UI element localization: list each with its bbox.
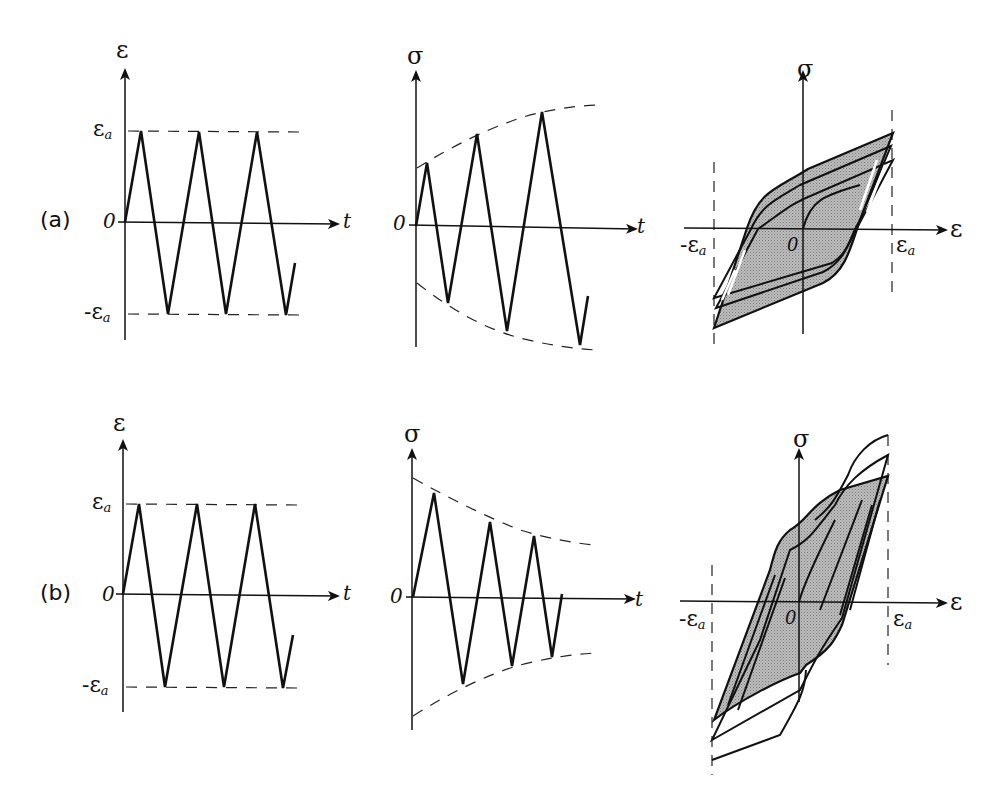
zero-label: 0 (103, 211, 116, 231)
epsilon-axis (684, 228, 946, 230)
zero-label: 0 (393, 213, 406, 233)
row-b-stress-time-plot (406, 450, 634, 730)
t-axis (116, 594, 338, 596)
neg-eps-symbol: -ε (680, 232, 699, 257)
strain-axis-label: ε (950, 217, 962, 241)
neg-eps-symbol: -ε (679, 606, 698, 631)
row-label-b: (b) (40, 582, 71, 604)
eps-symbol: ε (92, 489, 103, 514)
zero-label: 0 (390, 586, 403, 606)
strain-limit-label: εa (893, 608, 912, 631)
neg-strain-limit-label: -εa (680, 234, 707, 257)
subscript-a: a (698, 617, 706, 632)
upper-limit-dashed (126, 504, 298, 505)
lower-limit-dashed (128, 314, 300, 315)
lower-envelope-dashed (417, 283, 597, 350)
row-a-strain-time-plot (118, 70, 338, 340)
subscript-a: a (907, 243, 915, 258)
subscript-a: a (699, 243, 707, 258)
lower-envelope-dashed (413, 653, 595, 716)
epsilon-axis (680, 601, 946, 603)
figure-canvas (0, 0, 998, 812)
strain-axis-label: ε (113, 411, 125, 435)
row-label-a: (a) (40, 209, 71, 231)
neg-eps-symbol: -ε (82, 672, 101, 697)
strain-axis-label: ε (116, 38, 128, 62)
row-a-stress-time-plot (409, 72, 636, 350)
eps-symbol: ε (893, 606, 904, 631)
subscript-a: a (104, 127, 112, 142)
lower-limit-dashed (126, 687, 298, 688)
strain-limit-label: εa (896, 234, 915, 257)
neg-strain-amplitude-label: -εa (84, 301, 111, 324)
subscript-a: a (904, 617, 912, 632)
stress-signal (413, 493, 562, 684)
t-axis (406, 597, 634, 599)
origin-label: 0 (785, 609, 796, 627)
subscript-a: a (103, 310, 111, 325)
neg-strain-limit-label: -εa (679, 608, 706, 631)
row-b-hysteresis-plot (680, 435, 946, 775)
eps-symbol: ε (93, 116, 104, 141)
stress-axis-label: σ (793, 427, 809, 451)
stress-signal (416, 112, 588, 345)
neg-eps-symbol: -ε (84, 299, 103, 324)
origin-label: 0 (787, 236, 798, 254)
time-axis-label: t (343, 583, 351, 603)
stress-axis-label: σ (797, 57, 813, 81)
strain-axis-label: ε (950, 590, 962, 614)
t-axis (118, 222, 338, 224)
strain-amplitude-label: εa (92, 491, 111, 514)
upper-limit-dashed (128, 131, 300, 132)
zero-label: 0 (102, 584, 115, 604)
neg-strain-amplitude-label: -εa (82, 674, 109, 697)
time-axis-label: t (343, 211, 351, 231)
time-axis-label: t (635, 589, 643, 609)
eps-symbol: ε (896, 232, 907, 257)
time-axis-label: t (637, 216, 645, 236)
subscript-a: a (101, 683, 109, 698)
strain-amplitude-label: εa (93, 118, 112, 141)
upper-envelope-dashed (417, 105, 600, 168)
subscript-a: a (103, 500, 111, 515)
stress-axis-label: σ (407, 44, 423, 68)
row-b-strain-time-plot (116, 441, 338, 712)
row-a-hysteresis-plot (684, 72, 946, 348)
stress-axis-label: σ (404, 422, 420, 446)
